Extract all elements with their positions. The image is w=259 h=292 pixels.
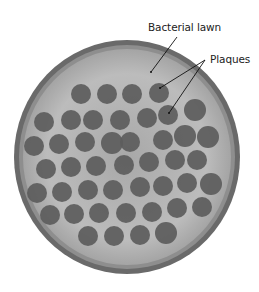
plaque — [40, 205, 60, 225]
plaque — [52, 182, 72, 202]
plaque — [101, 132, 123, 154]
bacterial-lawn-label: Bacterial lawn — [148, 21, 221, 33]
plaque — [137, 108, 157, 128]
plaque — [24, 136, 44, 156]
plaque — [197, 126, 219, 148]
plaque — [104, 226, 124, 246]
plaque — [71, 84, 91, 104]
plaque — [75, 132, 95, 152]
plaque — [110, 110, 130, 130]
plaque — [122, 84, 142, 104]
plaque — [130, 177, 150, 197]
plaque — [165, 150, 185, 170]
plaque — [83, 110, 103, 130]
plaques-label: Plaques — [210, 53, 250, 65]
plaque — [34, 112, 54, 132]
plaque — [116, 203, 136, 223]
plaque — [49, 134, 69, 154]
plaque — [153, 176, 173, 196]
plaque — [187, 150, 207, 170]
plaque — [153, 130, 173, 150]
plaque — [174, 125, 196, 147]
plaque — [61, 157, 81, 177]
plaque — [120, 132, 140, 152]
plaque — [142, 202, 162, 222]
plaque — [103, 180, 123, 200]
plaque-leader-dot-1 — [159, 87, 161, 89]
plaque — [61, 110, 81, 130]
plaque — [139, 152, 159, 172]
plaque — [177, 173, 197, 193]
plaque — [200, 173, 222, 195]
plaque — [184, 99, 206, 121]
plaque — [78, 180, 98, 200]
plaque — [130, 225, 150, 245]
plaque — [36, 159, 56, 179]
plaque — [192, 197, 212, 217]
plaque — [64, 204, 84, 224]
plaque — [78, 226, 98, 246]
plaque — [97, 84, 117, 104]
plaque — [149, 83, 169, 103]
petri-dish-figure: Bacterial lawn Plaques — [0, 0, 259, 292]
lawn-leader-dot — [150, 71, 152, 73]
plaque — [89, 203, 109, 223]
plaque — [86, 156, 106, 176]
plaque — [114, 155, 134, 175]
plaque — [158, 105, 178, 125]
petri-dish-illustration — [0, 0, 259, 292]
plaque — [155, 222, 177, 244]
plaque-leader-dot-2 — [168, 112, 170, 114]
plaque — [27, 183, 47, 203]
plaque — [167, 198, 187, 218]
